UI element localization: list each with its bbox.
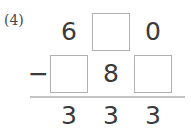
subtrahend-ones-answer-box[interactable] [134,55,172,93]
subtrahend-hundreds-answer-box[interactable] [50,55,88,93]
minuend-ones-cell: 0 [132,13,174,51]
minuend-tens-cell [90,13,132,51]
minus-operator-icon: − [28,55,46,93]
difference-hundreds-cell: 3 [48,101,90,131]
problem-index-label: (4) [4,13,24,27]
subtrahend-ones-cell [132,55,174,93]
difference-ones-cell: 3 [132,101,174,131]
subtrahend-hundreds-cell [48,55,90,93]
minuend-hundreds-digit: 6 [48,13,90,51]
minuend-tens-answer-box[interactable] [92,13,130,51]
difference-ones-digit: 3 [132,101,174,131]
minuend-ones-digit: 0 [132,13,174,51]
subtrahend-tens-digit: 8 [90,55,132,93]
difference-tens-cell: 3 [90,101,132,131]
minuend-hundreds-cell: 6 [48,13,90,51]
subtraction-problem: (4) 6 0 − 8 3 3 3 [0,0,191,135]
calculation-rule-line [30,96,185,98]
difference-hundreds-digit: 3 [48,101,90,131]
difference-tens-digit: 3 [90,101,132,131]
subtrahend-tens-cell: 8 [90,55,132,93]
